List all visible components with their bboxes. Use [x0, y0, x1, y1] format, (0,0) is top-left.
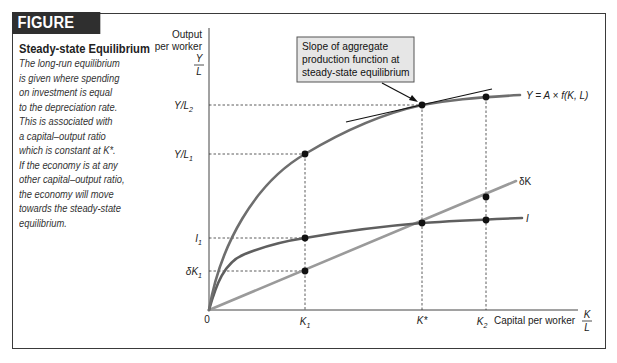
callout-arrow — [382, 83, 414, 100]
investment-curve-label: I — [526, 213, 529, 224]
x-tick-k2: K2 — [477, 316, 488, 329]
y-tick-i1: I1 — [195, 233, 202, 246]
x-axis-fraction-num: K — [584, 309, 592, 320]
x-axis-fraction-den: L — [584, 322, 590, 333]
y-tick-yl2: Y/L2 — [174, 100, 193, 113]
x-tick-k1: K1 — [300, 316, 311, 329]
x-tick-kstar: K* — [417, 315, 429, 326]
callout-line: steady-state equilibrium — [302, 67, 410, 78]
x-axis-title: Capital per worker — [494, 315, 576, 326]
callout-arrowhead — [409, 95, 418, 102]
chart-svg: Slope of aggregate production function a… — [0, 0, 617, 363]
y-axis-fraction-num: Y — [196, 53, 204, 64]
y-axis-title-line2: per worker — [155, 41, 203, 52]
origin-label: 0 — [204, 314, 210, 325]
y-tick-yl1: Y/L1 — [174, 149, 193, 162]
y-tick-dk1: δK1 — [186, 266, 202, 279]
y-axis-title-line1: Output — [172, 29, 202, 40]
callout-line: Slope of aggregate — [302, 41, 388, 52]
guide-lines — [209, 97, 486, 310]
y-axis-fraction-den: L — [196, 66, 202, 77]
investment-curve — [209, 218, 522, 310]
depreciation-line-label: δK — [519, 176, 532, 187]
equilibrium-points — [302, 94, 490, 275]
production-curve — [209, 95, 520, 310]
callout-line: production function at — [302, 54, 400, 65]
production-curve-label: Y = A × f(K, L) — [526, 90, 588, 101]
